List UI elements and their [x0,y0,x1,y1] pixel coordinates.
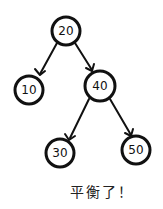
node-label: 10 [21,83,36,97]
edge-40-50 [110,99,133,136]
edge-40-30 [65,99,89,140]
tree-node-20: 20 [52,17,80,45]
tree-node-50: 50 [122,136,150,164]
edges [35,43,133,140]
edge-20-40 [75,43,94,71]
node-label: 30 [52,146,67,160]
tree-node-40: 40 [85,71,115,101]
nodes: 20 10 40 30 50 [15,17,150,167]
balanced-tree-diagram: 20 10 40 30 50 [0,0,163,209]
tree-node-10: 10 [15,76,43,104]
node-label: 50 [128,143,143,157]
node-label: 40 [92,79,107,93]
edge-20-10 [35,43,57,75]
node-label: 20 [58,24,73,38]
tree-node-30: 30 [46,139,74,167]
balanced-caption: 平衡了！ [70,181,142,201]
